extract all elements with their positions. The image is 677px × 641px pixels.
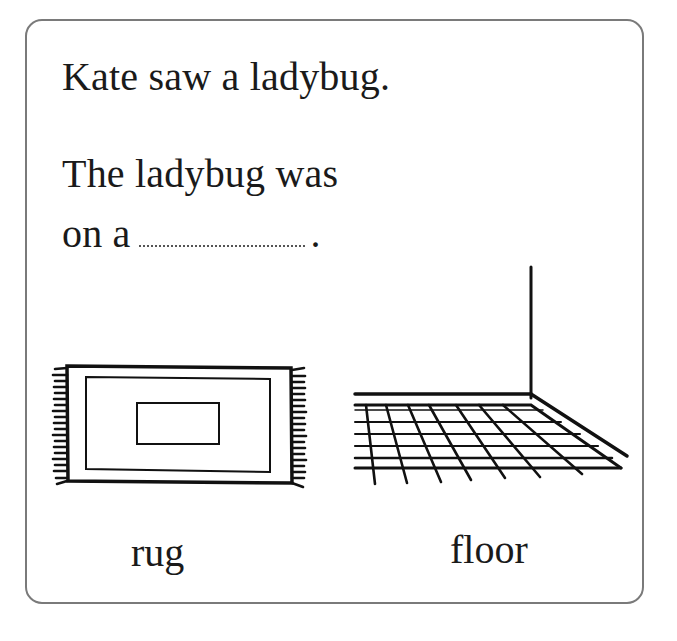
- option-label-rug[interactable]: rug: [131, 533, 184, 573]
- option-label-floor[interactable]: floor: [450, 530, 528, 570]
- floor-picture[interactable]: [355, 267, 627, 484]
- illustrations: [0, 0, 677, 641]
- rug-picture[interactable]: [53, 366, 306, 487]
